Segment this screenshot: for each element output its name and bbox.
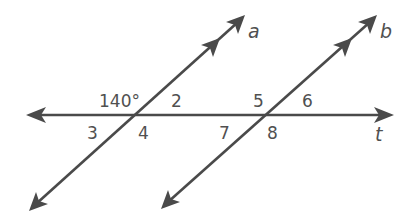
parallel-lines-diagram: a b t 140° 2 3 4 5 6 7 8	[0, 0, 416, 214]
parallel-line-a	[29, 15, 245, 211]
angle-label-6: 6	[302, 91, 313, 111]
angle-label-5: 5	[253, 91, 264, 111]
angle-label-140-degrees: 140°	[99, 91, 140, 111]
line-label-t: t	[375, 123, 384, 145]
angle-label-4: 4	[138, 123, 149, 143]
transversal-line-t	[26, 107, 394, 123]
angle-label-2: 2	[171, 91, 182, 111]
line-label-b: b	[380, 20, 392, 42]
line-label-a: a	[248, 20, 260, 42]
angle-label-3: 3	[87, 123, 98, 143]
parallel-line-b	[161, 15, 377, 209]
angle-label-7: 7	[219, 123, 230, 143]
angle-label-8: 8	[267, 123, 278, 143]
